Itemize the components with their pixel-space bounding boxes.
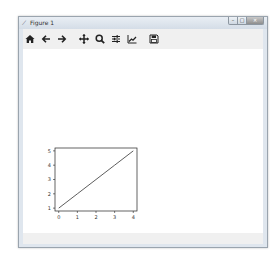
figure-canvas[interactable]: 0123412345 bbox=[23, 49, 263, 233]
x-tick-label: 4 bbox=[132, 214, 135, 220]
zoom-button[interactable] bbox=[93, 32, 107, 46]
x-tick-label: 2 bbox=[94, 214, 97, 220]
save-button[interactable] bbox=[147, 32, 161, 46]
sliders-icon bbox=[111, 34, 121, 44]
minimize-button[interactable]: – bbox=[228, 17, 238, 25]
figure-window: ⟋ Figure 1 – □ ✕ bbox=[18, 16, 268, 248]
axes: 0123412345 bbox=[48, 148, 137, 220]
edit-axis-button[interactable] bbox=[125, 32, 139, 46]
move-icon bbox=[79, 34, 89, 44]
y-tick-label: 1 bbox=[48, 205, 51, 211]
y-tick-label: 2 bbox=[48, 191, 51, 197]
x-tick-label: 3 bbox=[113, 214, 116, 220]
line-chart-icon bbox=[127, 34, 137, 44]
arrow-right-icon bbox=[57, 34, 67, 44]
magnifier-icon bbox=[95, 34, 105, 44]
window-controls: – □ ✕ bbox=[228, 17, 264, 25]
home-icon bbox=[25, 34, 35, 44]
x-tick-label: 1 bbox=[76, 214, 79, 220]
home-button[interactable] bbox=[23, 32, 37, 46]
navigation-toolbar bbox=[23, 29, 263, 49]
y-tick-label: 3 bbox=[48, 176, 51, 182]
y-tick-label: 5 bbox=[48, 148, 51, 154]
status-bar bbox=[23, 233, 263, 244]
back-button[interactable] bbox=[39, 32, 53, 46]
x-tick-label: 0 bbox=[57, 214, 60, 220]
floppy-disk-icon bbox=[149, 34, 159, 44]
pan-button[interactable] bbox=[77, 32, 91, 46]
window-title: Figure 1 bbox=[30, 18, 54, 28]
configure-subplots-button[interactable] bbox=[109, 32, 123, 46]
line-plot: 0123412345 bbox=[23, 49, 265, 233]
app-icon: ⟋ bbox=[22, 19, 29, 26]
forward-button[interactable] bbox=[55, 32, 69, 46]
y-tick-label: 4 bbox=[48, 162, 51, 168]
maximize-button[interactable]: □ bbox=[238, 17, 247, 25]
close-button[interactable]: ✕ bbox=[247, 17, 264, 25]
arrow-left-icon bbox=[41, 34, 51, 44]
title-bar[interactable]: ⟋ Figure 1 – □ ✕ bbox=[19, 17, 267, 29]
